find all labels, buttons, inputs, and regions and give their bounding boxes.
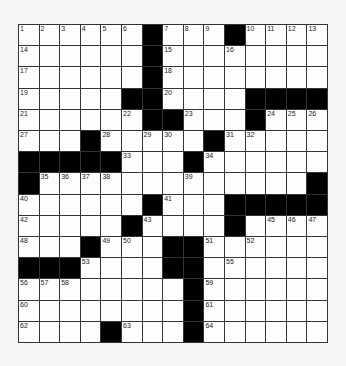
grid-cell[interactable] bbox=[287, 301, 307, 321]
grid-cell[interactable] bbox=[101, 67, 121, 87]
grid-cell[interactable]: 29 bbox=[143, 131, 163, 151]
grid-cell[interactable]: 6 bbox=[122, 25, 142, 45]
grid-cell[interactable] bbox=[101, 279, 121, 299]
grid-cell[interactable]: 37 bbox=[81, 173, 101, 193]
grid-cell[interactable] bbox=[143, 152, 163, 172]
grid-cell[interactable] bbox=[101, 195, 121, 215]
grid-cell[interactable] bbox=[122, 195, 142, 215]
grid-cell[interactable]: 18 bbox=[163, 67, 183, 87]
grid-cell[interactable]: 38 bbox=[101, 173, 121, 193]
grid-cell[interactable] bbox=[40, 301, 60, 321]
grid-cell[interactable]: 50 bbox=[122, 237, 142, 257]
grid-cell[interactable]: 24 bbox=[266, 110, 286, 130]
grid-cell[interactable] bbox=[287, 279, 307, 299]
grid-cell[interactable]: 10 bbox=[246, 25, 266, 45]
grid-cell[interactable] bbox=[266, 152, 286, 172]
grid-cell[interactable] bbox=[287, 173, 307, 193]
grid-cell[interactable] bbox=[225, 89, 245, 109]
grid-cell[interactable] bbox=[143, 301, 163, 321]
grid-cell[interactable] bbox=[60, 110, 80, 130]
grid-cell[interactable]: 5 bbox=[101, 25, 121, 45]
grid-cell[interactable] bbox=[246, 152, 266, 172]
grid-cell[interactable]: 26 bbox=[307, 110, 327, 130]
grid-cell[interactable] bbox=[287, 46, 307, 66]
grid-cell[interactable] bbox=[184, 216, 204, 236]
grid-cell[interactable] bbox=[81, 216, 101, 236]
grid-cell[interactable] bbox=[204, 67, 224, 87]
grid-cell[interactable] bbox=[246, 279, 266, 299]
grid-cell[interactable]: 47 bbox=[307, 216, 327, 236]
grid-cell[interactable]: 16 bbox=[225, 46, 245, 66]
grid-cell[interactable] bbox=[81, 46, 101, 66]
grid-cell[interactable] bbox=[143, 322, 163, 342]
grid-cell[interactable] bbox=[287, 258, 307, 278]
grid-cell[interactable]: 17 bbox=[19, 67, 39, 87]
grid-cell[interactable]: 11 bbox=[266, 25, 286, 45]
grid-cell[interactable] bbox=[40, 46, 60, 66]
grid-cell[interactable] bbox=[81, 279, 101, 299]
grid-cell[interactable] bbox=[101, 258, 121, 278]
grid-cell[interactable]: 36 bbox=[60, 173, 80, 193]
grid-cell[interactable] bbox=[266, 46, 286, 66]
grid-cell[interactable] bbox=[81, 195, 101, 215]
grid-cell[interactable] bbox=[225, 173, 245, 193]
grid-cell[interactable] bbox=[225, 67, 245, 87]
grid-cell[interactable] bbox=[122, 173, 142, 193]
grid-cell[interactable] bbox=[307, 152, 327, 172]
grid-cell[interactable] bbox=[307, 301, 327, 321]
grid-cell[interactable] bbox=[246, 46, 266, 66]
grid-cell[interactable]: 64 bbox=[204, 322, 224, 342]
grid-cell[interactable]: 41 bbox=[163, 195, 183, 215]
grid-cell[interactable] bbox=[246, 173, 266, 193]
grid-cell[interactable] bbox=[143, 173, 163, 193]
grid-cell[interactable]: 51 bbox=[204, 237, 224, 257]
grid-cell[interactable]: 15 bbox=[163, 46, 183, 66]
grid-cell[interactable] bbox=[184, 46, 204, 66]
grid-cell[interactable] bbox=[204, 216, 224, 236]
grid-cell[interactable]: 14 bbox=[19, 46, 39, 66]
grid-cell[interactable]: 9 bbox=[204, 25, 224, 45]
grid-cell[interactable]: 58 bbox=[60, 279, 80, 299]
grid-cell[interactable]: 45 bbox=[266, 216, 286, 236]
grid-cell[interactable] bbox=[307, 67, 327, 87]
grid-cell[interactable]: 59 bbox=[204, 279, 224, 299]
grid-cell[interactable] bbox=[266, 237, 286, 257]
grid-cell[interactable] bbox=[287, 322, 307, 342]
grid-cell[interactable] bbox=[40, 67, 60, 87]
grid-cell[interactable] bbox=[101, 110, 121, 130]
grid-cell[interactable] bbox=[122, 46, 142, 66]
grid-cell[interactable] bbox=[246, 301, 266, 321]
grid-cell[interactable] bbox=[184, 67, 204, 87]
grid-cell[interactable]: 39 bbox=[184, 173, 204, 193]
grid-cell[interactable]: 49 bbox=[101, 237, 121, 257]
grid-cell[interactable] bbox=[163, 322, 183, 342]
grid-cell[interactable] bbox=[101, 89, 121, 109]
grid-cell[interactable] bbox=[163, 216, 183, 236]
grid-cell[interactable] bbox=[60, 237, 80, 257]
grid-cell[interactable] bbox=[266, 258, 286, 278]
grid-cell[interactable]: 42 bbox=[19, 216, 39, 236]
grid-cell[interactable] bbox=[266, 322, 286, 342]
grid-cell[interactable]: 8 bbox=[184, 25, 204, 45]
grid-cell[interactable] bbox=[163, 279, 183, 299]
grid-cell[interactable] bbox=[60, 67, 80, 87]
grid-cell[interactable]: 40 bbox=[19, 195, 39, 215]
grid-cell[interactable] bbox=[266, 173, 286, 193]
grid-cell[interactable]: 55 bbox=[225, 258, 245, 278]
grid-cell[interactable] bbox=[184, 89, 204, 109]
grid-cell[interactable]: 20 bbox=[163, 89, 183, 109]
grid-cell[interactable] bbox=[101, 216, 121, 236]
grid-cell[interactable] bbox=[40, 110, 60, 130]
grid-cell[interactable] bbox=[266, 67, 286, 87]
grid-cell[interactable] bbox=[143, 279, 163, 299]
grid-cell[interactable] bbox=[246, 322, 266, 342]
grid-cell[interactable] bbox=[40, 216, 60, 236]
grid-cell[interactable] bbox=[40, 237, 60, 257]
grid-cell[interactable]: 3 bbox=[60, 25, 80, 45]
grid-cell[interactable] bbox=[40, 195, 60, 215]
grid-cell[interactable]: 52 bbox=[246, 237, 266, 257]
grid-cell[interactable]: 12 bbox=[287, 25, 307, 45]
grid-cell[interactable] bbox=[163, 173, 183, 193]
grid-cell[interactable] bbox=[81, 89, 101, 109]
grid-cell[interactable]: 25 bbox=[287, 110, 307, 130]
